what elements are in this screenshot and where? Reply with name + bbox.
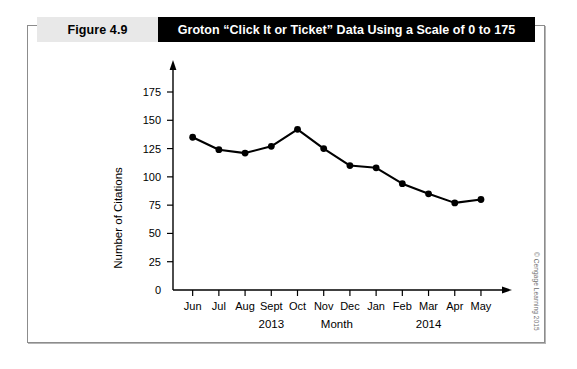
x-axis-arrow (502, 287, 512, 294)
data-point (399, 180, 406, 187)
data-point (451, 199, 458, 206)
y-tick-label: 125 (143, 143, 161, 155)
line-chart: Number of Citations 0255075100125150175 … (28, 26, 544, 342)
y-tick-label: 50 (149, 227, 161, 239)
x-tick-label: Dec (340, 300, 360, 312)
y-tick-label: 0 (155, 284, 161, 296)
y-tick-label: 75 (149, 199, 161, 211)
data-point (373, 164, 380, 171)
x-tick-label: Sept (260, 300, 283, 312)
x-tick-label: Oct (289, 300, 306, 312)
x-tick-label: Jul (212, 300, 226, 312)
credit-line: © Cengage Learning 2015 (529, 252, 543, 348)
y-axis-title: Number of Citations (112, 167, 124, 269)
x-axis-group-label: 2014 (416, 318, 442, 330)
x-axis-group-labels: 2013Month2014 (258, 318, 441, 330)
data-points (189, 126, 484, 206)
data-point (268, 143, 275, 150)
x-tick-label: Mar (419, 300, 438, 312)
x-tick-label: May (471, 300, 492, 312)
axis-lines (170, 60, 512, 293)
x-tick-label: Nov (314, 300, 334, 312)
y-axis-arrow (170, 60, 177, 70)
data-point (242, 150, 249, 157)
figure-root: Figure 4.9 Groton “Click It or Ticket” D… (0, 0, 577, 369)
data-point (478, 196, 485, 203)
x-axis-group-label: Month (321, 318, 353, 330)
y-tick-label: 100 (143, 171, 161, 183)
data-line (193, 129, 481, 203)
x-tick-label: Jan (367, 300, 385, 312)
x-axis-ticks: JunJulAugSeptOctNovDecJanFebMarAprMay (184, 290, 492, 312)
data-point (294, 126, 301, 133)
chart-canvas: Number of Citations 0255075100125150175 … (28, 26, 544, 342)
credit-text: © Cengage Learning 2015 (533, 252, 540, 331)
data-point (425, 190, 432, 197)
x-tick-label: Apr (446, 300, 463, 312)
x-tick-label: Feb (393, 300, 412, 312)
data-point (347, 162, 354, 169)
x-tick-label: Jun (184, 300, 202, 312)
x-tick-label: Aug (235, 300, 255, 312)
series-polyline (193, 129, 481, 203)
data-point (189, 134, 196, 141)
x-axis-group-label: 2013 (258, 318, 284, 330)
y-tick-label: 25 (149, 256, 161, 268)
y-axis-ticks: 0255075100125150175 (143, 86, 173, 296)
data-point (215, 146, 222, 153)
y-tick-label: 150 (143, 114, 161, 126)
data-point (320, 145, 327, 152)
y-tick-label: 175 (143, 86, 161, 98)
